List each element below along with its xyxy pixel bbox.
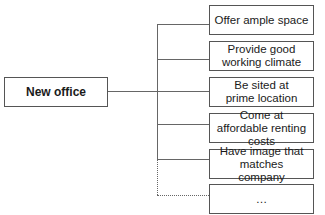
connector-branch-1 [157,24,209,25]
connector-branch-3 [157,91,209,92]
child-node-prime-location: Be sited at prime location [209,77,314,107]
child-label: … [256,193,268,206]
child-node-ample-space: Offer ample space [209,5,314,35]
connector-branch-4 [157,124,209,125]
connector-trunk [157,24,158,160]
child-node-working-climate: Provide good working climate [209,41,314,71]
connector-branch-2 [157,59,209,60]
child-label: Be sited at prime location [222,79,302,105]
child-node-company-image: Have image that matches company [209,149,314,179]
connector-branch-6-dotted [157,195,209,196]
connector-trunk-dotted [157,160,158,195]
child-label: Offer ample space [215,14,309,27]
child-label: Provide good working climate [222,43,302,69]
child-label: Come at affordable renting costs [216,109,308,148]
root-node-new-office: New office [4,77,108,107]
child-node-affordable-costs: Come at affordable renting costs [209,113,314,143]
child-node-more: … [209,184,314,214]
child-label: Have image that matches company [216,145,308,184]
connector-root [108,91,158,92]
connector-branch-5 [157,159,209,160]
root-label: New office [26,86,86,99]
